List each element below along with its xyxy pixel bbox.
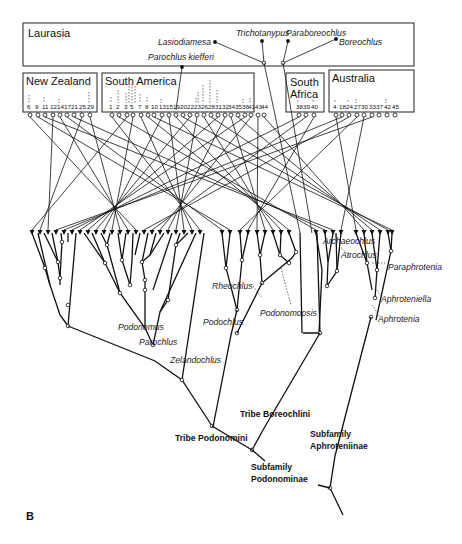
area-label-south-africa-1: South xyxy=(290,76,319,88)
svg-text:44: 44 xyxy=(261,103,268,110)
area-label-laurasia: Laurasia xyxy=(28,27,71,39)
genus-podochlus: Podochlus xyxy=(203,317,244,327)
taxon-parochlus-kiefferi: Parochlus kiefferi xyxy=(148,52,215,62)
svg-text:45: 45 xyxy=(392,103,399,110)
svg-text:5: 5 xyxy=(130,103,134,110)
genus-aphroteniella: Aphroteniella xyxy=(380,294,431,304)
svg-text:25: 25 xyxy=(79,103,86,110)
svg-text:3: 3 xyxy=(124,103,128,110)
genus-archaeochlus: Archaeochlus xyxy=(322,236,376,246)
group-subfamily-podonominae-2: Podonominae xyxy=(251,474,308,484)
genus-aphrotenia: Aphrotenia xyxy=(377,314,420,324)
cladogram-branches xyxy=(32,233,393,515)
sa-node-numbers: 1 2 3 5 7 8 10 13 15 19 20 22 23 26 28 3… xyxy=(109,103,268,110)
svg-text:2: 2 xyxy=(116,103,120,110)
taxon-boreochlus: Boreochlus xyxy=(339,37,383,47)
area-label-south-africa-2: Africa xyxy=(290,88,319,100)
genus-podonomopsis: Podonomopsis xyxy=(260,308,318,318)
group-subfamily-aphroteniinae-2: Aphroteniinae xyxy=(310,441,368,451)
group-subfamily-aphroteniinae-1: Subfamily xyxy=(310,429,351,439)
svg-text:7: 7 xyxy=(138,103,142,110)
svg-text:6: 6 xyxy=(27,103,31,110)
taxon-trichotanypus: Trichotanypus xyxy=(236,28,290,38)
panel-label: B xyxy=(26,510,34,522)
genus-zelandochlus: Zelandochlus xyxy=(169,355,222,365)
area-label-new-zealand: New Zealand xyxy=(26,75,91,87)
area-label-south-america: South America xyxy=(105,75,177,87)
safrica-node-numbers: 38 39 40 xyxy=(296,103,318,110)
svg-text:10: 10 xyxy=(151,103,158,110)
area-cladogram: Laurasia Lasiodiamesa Trichotanypus Para… xyxy=(0,0,462,544)
area-node-circles xyxy=(28,113,397,117)
nz-node-numbers: 6 9 11 12 14 17 21 25 29 xyxy=(27,103,94,110)
svg-text:30: 30 xyxy=(361,103,368,110)
svg-text:4: 4 xyxy=(333,103,337,110)
svg-text:1: 1 xyxy=(109,103,113,110)
svg-text:39: 39 xyxy=(303,103,310,110)
svg-text:42: 42 xyxy=(384,103,391,110)
svg-text:40: 40 xyxy=(311,103,318,110)
svg-text:24: 24 xyxy=(346,103,353,110)
area-to-tip-links xyxy=(30,117,392,230)
genus-atrochlus: Atrochlus xyxy=(340,250,378,260)
australia-node-numbers: 4 18 24 27 30 33 37 42 45 xyxy=(333,103,399,110)
svg-text:8: 8 xyxy=(145,103,149,110)
svg-text:21: 21 xyxy=(71,103,78,110)
taxon-lasiodiamesa: Lasiodiamesa xyxy=(158,37,211,47)
genus-rheochlus: Rheochlus xyxy=(212,281,253,291)
svg-text:9: 9 xyxy=(35,103,39,110)
svg-text:11: 11 xyxy=(42,103,49,110)
group-tribe-podonomini: Tribe Podonomini xyxy=(175,433,248,443)
svg-text:29: 29 xyxy=(87,103,94,110)
taxon-paraboreochlus: Paraboreochlus xyxy=(286,28,347,38)
genus-podonomus: Podonomus xyxy=(118,322,165,332)
genus-paraphrotenia: Paraphrotenia xyxy=(388,262,442,272)
svg-text:37: 37 xyxy=(376,103,383,110)
area-label-australia: Australia xyxy=(332,72,376,84)
group-subfamily-podonominae-1: Subfamily xyxy=(251,462,292,472)
group-tribe-boreochlini: Tribe Boreochlini xyxy=(240,409,310,419)
genus-parochlus: Parochlus xyxy=(139,337,178,347)
